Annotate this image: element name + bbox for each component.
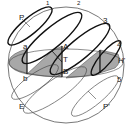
label-1: 1 — [46, 0, 49, 6]
label-A: A — [63, 43, 68, 51]
label-a: a — [23, 43, 27, 51]
polar-axis-tick-Pprime — [88, 91, 96, 99]
label-Pprime: P' — [103, 103, 110, 111]
label-4: 4 — [117, 41, 121, 49]
label-E: E — [19, 103, 24, 111]
label-P: P — [19, 14, 24, 22]
label-b: b — [23, 75, 27, 83]
diurnal-circle-1 — [3, 2, 56, 50]
label-T: T — [63, 56, 68, 64]
label-B: B — [63, 68, 68, 76]
label-5: 5 — [117, 76, 121, 84]
label-3: 3 — [103, 17, 107, 25]
label-2: 2 — [77, 0, 80, 6]
label-Hprime: H' — [118, 57, 125, 65]
